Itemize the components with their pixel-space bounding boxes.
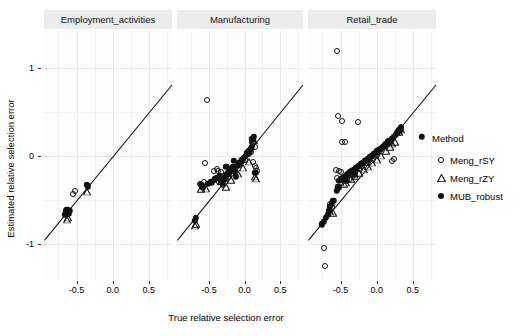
legend-item-label: Meng_rZY <box>450 173 494 184</box>
y-axis-title: Estimated relative selection error <box>2 0 18 336</box>
data-point <box>352 172 358 178</box>
gridline-horizontal <box>177 244 303 245</box>
data-point <box>72 188 78 194</box>
gridline-horizontal-minor <box>308 112 436 113</box>
data-point <box>205 181 211 187</box>
y-tick-mark <box>38 156 41 157</box>
data-point <box>345 172 351 178</box>
data-point <box>211 168 217 174</box>
x-tick-mark <box>149 281 150 284</box>
data-point <box>347 169 353 175</box>
gridline-horizontal <box>44 156 172 157</box>
data-point <box>199 184 205 190</box>
data-point <box>254 168 260 174</box>
facet-panel <box>308 31 436 281</box>
data-point <box>345 170 351 176</box>
data-point <box>215 168 221 174</box>
data-point <box>250 159 256 165</box>
facet-strip-label: Employment_activities <box>44 10 172 29</box>
chart-root: Estimated relative selection error True … <box>0 0 528 336</box>
gridline-horizontal <box>308 68 436 69</box>
data-point <box>251 134 257 140</box>
identity-reference-line <box>308 84 436 240</box>
data-point <box>343 172 349 178</box>
data-point <box>214 166 220 172</box>
data-point <box>360 159 366 165</box>
x-tick-label: 0.0 <box>106 285 119 295</box>
legend-item-label: Meng_rSY <box>450 155 495 166</box>
x-tick-label: -0.5 <box>333 285 349 295</box>
data-point <box>252 163 258 169</box>
x-tick-mark <box>377 281 378 284</box>
y-tick-mark <box>38 68 41 69</box>
data-point <box>197 181 203 187</box>
legend-key-circle-fill-icon <box>432 193 450 200</box>
facet-strip-label: Manufacturing <box>177 10 303 29</box>
x-tick-mark <box>245 281 246 284</box>
data-point <box>363 157 369 163</box>
legend-item-label: MUB_robust <box>450 191 503 202</box>
data-point <box>253 165 259 171</box>
data-point <box>217 173 223 179</box>
data-point <box>347 169 355 176</box>
legend: Method Meng_rSYMeng_rZYMUB_robust <box>432 133 524 205</box>
data-point <box>334 175 340 181</box>
data-point <box>347 176 353 182</box>
legend-title: Method <box>432 133 524 144</box>
data-point <box>343 178 349 184</box>
x-tick-label: 0.5 <box>143 285 156 295</box>
identity-reference-line <box>44 84 172 240</box>
data-point <box>250 131 258 138</box>
data-point <box>249 136 255 142</box>
facet-panel <box>177 31 303 281</box>
data-point <box>360 160 368 167</box>
data-point <box>342 173 350 180</box>
data-point <box>350 173 356 179</box>
x-tick-label: -0.5 <box>69 285 85 295</box>
gridline-horizontal <box>44 244 172 245</box>
data-point <box>231 158 237 164</box>
x-tick-label: 0.0 <box>370 285 383 295</box>
gridline-horizontal <box>177 156 303 157</box>
data-point <box>363 160 369 166</box>
facet-panel <box>44 31 172 281</box>
data-point <box>418 134 424 140</box>
gridline-horizontal-minor <box>44 112 172 113</box>
x-tick-mark <box>280 281 281 284</box>
data-point <box>251 166 259 173</box>
gridline-horizontal-minor <box>44 200 172 201</box>
data-point <box>198 182 204 188</box>
data-point <box>349 168 355 174</box>
legend-item[interactable]: Meng_rZY <box>432 169 524 187</box>
data-point <box>354 164 360 170</box>
data-point <box>218 169 224 175</box>
gridline-horizontal <box>44 68 172 69</box>
data-point <box>249 130 257 137</box>
data-point <box>334 48 340 54</box>
gridline-horizontal-minor <box>308 200 436 201</box>
data-point <box>333 188 339 194</box>
x-tick-label: 0.5 <box>407 285 420 295</box>
data-point <box>352 170 358 176</box>
x-tick-label: 0.0 <box>238 285 251 295</box>
data-point <box>217 171 225 178</box>
y-tick-label: 1 <box>0 63 34 73</box>
data-point <box>252 169 260 176</box>
data-point <box>333 167 339 173</box>
data-point <box>201 179 207 185</box>
data-point <box>327 201 333 207</box>
x-tick-mark <box>113 281 114 284</box>
data-point <box>70 191 76 197</box>
identity-reference-line <box>177 84 303 240</box>
facet-strip-label: Retail_trade <box>308 10 436 29</box>
y-tick-mark <box>38 244 41 245</box>
x-axis-title: True relative selection error <box>44 312 408 323</box>
x-tick-mark <box>209 281 210 284</box>
legend-items: Meng_rSYMeng_rZYMUB_robust <box>432 151 524 205</box>
data-point <box>212 176 218 182</box>
data-point <box>233 173 239 179</box>
data-point <box>359 163 365 169</box>
gridline-horizontal-minor <box>177 200 303 201</box>
legend-item[interactable]: MUB_robust <box>432 187 524 205</box>
legend-item[interactable]: Meng_rSY <box>432 151 524 169</box>
